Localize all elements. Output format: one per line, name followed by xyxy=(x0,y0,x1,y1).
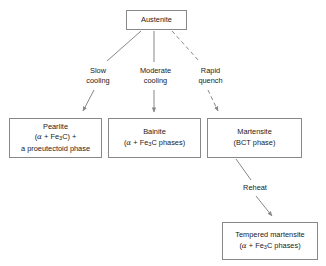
phase-transformation-diagram: Austenite Pearlite (α + Fe3C) + a proeut… xyxy=(0,0,326,266)
node-tempered-title: Tempered martensite xyxy=(235,230,304,241)
edge-label-moderate-cooling: Moderate cooling xyxy=(128,66,183,86)
formula-mid: + Fe xyxy=(247,241,264,250)
edge-label-moderate-line1: Moderate xyxy=(129,66,182,76)
node-pearlite-formula: (α + Fe3C) + xyxy=(35,132,77,143)
node-tempered-formula: (α + Fe3C phases) xyxy=(239,241,300,252)
node-austenite-label: Austenite xyxy=(141,15,172,26)
node-martensite-title: Martensite xyxy=(237,127,272,138)
node-tempered-martensite[interactable]: Tempered martensite (α + Fe3C phases) xyxy=(222,222,318,260)
formula-post: C) + xyxy=(62,132,76,141)
edge-label-slow-line2: cooling xyxy=(78,76,118,86)
node-pearlite-detail: a proeutectoid phase xyxy=(21,144,90,155)
node-pearlite[interactable]: Pearlite (α + Fe3C) + a proeutectoid pha… xyxy=(9,118,102,158)
node-martensite[interactable]: Martensite (BCT phase) xyxy=(207,118,302,158)
node-bainite-title: Bainite xyxy=(143,127,166,138)
edge-label-reheat: Reheat xyxy=(236,183,274,193)
node-martensite-detail: (BCT phase) xyxy=(234,138,276,149)
formula-post: C phases) xyxy=(151,138,185,147)
edge-label-moderate-line2: cooling xyxy=(129,76,182,86)
formula-mid: + Fe xyxy=(42,132,59,141)
node-pearlite-title: Pearlite xyxy=(43,122,68,133)
node-bainite-formula: (α + Fe3C phases) xyxy=(124,138,185,149)
edge-label-rapid-line2: quench xyxy=(190,76,231,86)
edge-label-slow-cooling: Slow cooling xyxy=(77,66,119,86)
formula-mid: + Fe xyxy=(131,138,148,147)
formula-post: C phases) xyxy=(267,241,301,250)
edge-label-rapid-quench: Rapid quench xyxy=(189,66,232,86)
edge-label-rapid-line1: Rapid xyxy=(190,66,231,76)
node-austenite[interactable]: Austenite xyxy=(126,10,187,30)
node-bainite[interactable]: Bainite (α + Fe3C phases) xyxy=(108,118,201,158)
edge-label-reheat-line1: Reheat xyxy=(237,183,273,193)
edge-label-slow-line1: Slow xyxy=(78,66,118,76)
